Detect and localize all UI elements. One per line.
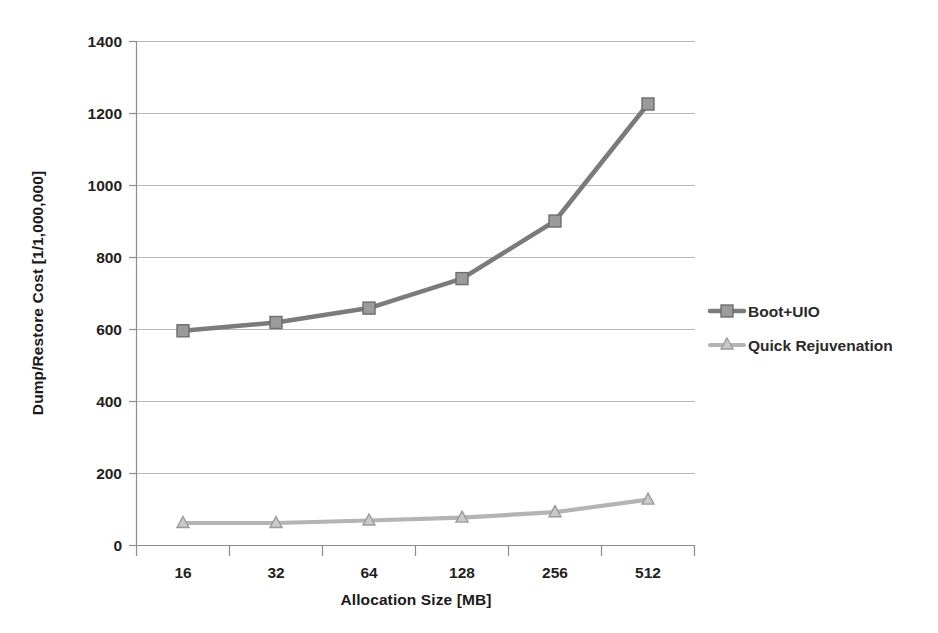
y-axis-title: Dump/Restore Cost [1/1,000,000] bbox=[29, 171, 46, 415]
data-point-marker bbox=[363, 302, 375, 314]
data-point-marker bbox=[642, 98, 654, 110]
x-tick-label-256: 256 bbox=[542, 564, 568, 581]
x-tick-label-32: 32 bbox=[267, 564, 284, 581]
square-marker-icon bbox=[721, 305, 733, 317]
x-tick-label-64: 64 bbox=[360, 564, 378, 581]
y-tick-label-600: 600 bbox=[96, 321, 122, 338]
data-point-marker bbox=[456, 273, 468, 285]
y-tick-label-800: 800 bbox=[96, 249, 122, 266]
x-tick-label-512: 512 bbox=[635, 564, 661, 581]
legend-label-quick-rejuvenation: Quick Rejuvenation bbox=[748, 337, 893, 354]
data-point-marker bbox=[270, 317, 282, 329]
chart-figure: 1400 1200 1000 800 600 400 200 0 16 32 6… bbox=[0, 0, 938, 633]
y-tick-label-1000: 1000 bbox=[88, 177, 122, 194]
chart-svg: 1400 1200 1000 800 600 400 200 0 16 32 6… bbox=[0, 0, 938, 633]
y-tick-label-400: 400 bbox=[96, 393, 122, 410]
y-tick-label-1400: 1400 bbox=[88, 33, 122, 50]
x-tick-label-16: 16 bbox=[174, 564, 192, 581]
legend-label-boot-uio: Boot+UIO bbox=[748, 303, 820, 320]
y-tick-label-0: 0 bbox=[113, 537, 122, 554]
y-tick-label-200: 200 bbox=[96, 465, 122, 482]
x-axis-title: Allocation Size [MB] bbox=[341, 591, 492, 608]
y-tick-label-1200: 1200 bbox=[88, 105, 122, 122]
x-tick-label-128: 128 bbox=[449, 564, 475, 581]
legend-item-boot-uio[interactable]: Boot+UIO bbox=[710, 303, 820, 320]
data-point-marker bbox=[177, 325, 189, 337]
data-point-marker bbox=[549, 215, 561, 227]
